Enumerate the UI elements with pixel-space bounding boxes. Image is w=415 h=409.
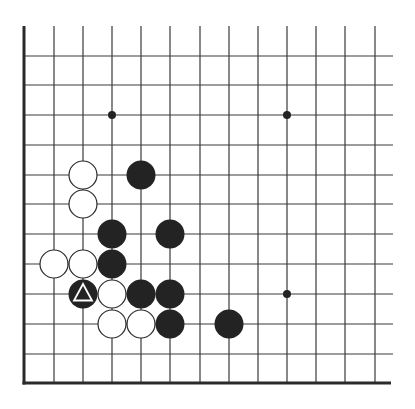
white-stone	[98, 280, 126, 308]
black-stone	[127, 280, 156, 309]
black-stone	[156, 220, 185, 249]
black-stone	[215, 310, 244, 339]
star-point	[283, 111, 291, 119]
white-stone	[69, 161, 97, 189]
stones	[40, 161, 244, 339]
go-board	[0, 0, 415, 409]
star-point	[108, 111, 116, 119]
white-stone	[69, 190, 97, 218]
black-stone	[156, 310, 185, 339]
white-stone	[127, 310, 155, 338]
black-stone	[127, 161, 156, 190]
white-stone	[69, 250, 97, 278]
black-stone	[156, 280, 185, 309]
white-stone	[40, 250, 68, 278]
black-stone	[98, 250, 127, 279]
white-stone	[98, 310, 126, 338]
black-stone	[98, 220, 127, 249]
star-point	[283, 290, 291, 298]
